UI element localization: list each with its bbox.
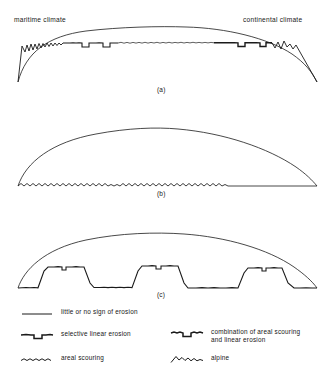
panel-a-selective-linear [63, 43, 118, 47]
legend-label-selective-linear-erosion: selective linear erosion [61, 329, 131, 338]
panel-c-diagram [0, 215, 335, 310]
panel-b-diagram [0, 110, 335, 210]
panel-a-little-erosion [118, 42, 214, 43]
panel-c-bed-profile [18, 266, 317, 288]
legend-label-no-erosion: little or no sign of erosion [61, 307, 138, 316]
legend-item-selective-linear-erosion: selective linear erosion [18, 329, 131, 342]
combination-symbol [168, 328, 206, 340]
legend-item-combination: combination of areal scouring and linear… [168, 327, 300, 344]
panel-a-label: (a) [157, 86, 166, 93]
panel-b-areal-scouring [18, 184, 228, 187]
panel-a-ice-surface [18, 27, 317, 82]
panel-b-label: (b) [157, 190, 166, 197]
continental-climate-label: continental climate [243, 16, 302, 23]
areal-scouring-symbol [18, 354, 56, 366]
panel-a-areal-scouring [214, 43, 272, 47]
panel-a-alpine-right [272, 41, 317, 82]
legend-item-no-erosion: little or no sign of erosion [18, 307, 138, 320]
selective-linear-erosion-symbol [18, 330, 56, 342]
legend-item-areal-scouring: areal scouring [18, 353, 104, 366]
maritime-climate-label: maritime climate [14, 16, 66, 23]
legend: little or no sign of erosion selective l… [0, 305, 335, 377]
legend-label-areal-scouring: areal scouring [61, 353, 104, 362]
legend-label-alpine: alpine [211, 353, 229, 362]
legend-item-alpine: alpine [168, 353, 229, 366]
panel-b-ice-surface [18, 128, 317, 186]
erosion-profile-figure: (a) (b) (c) maritime climate continental… [0, 0, 335, 377]
straight-line-symbol [18, 308, 56, 320]
panel-a-alpine-left [18, 43, 63, 82]
panel-c-label: (c) [157, 291, 165, 298]
panel-c-ice-surface [18, 233, 317, 288]
alpine-symbol [168, 354, 206, 366]
legend-label-combination: combination of areal scouring and linear… [211, 327, 300, 344]
